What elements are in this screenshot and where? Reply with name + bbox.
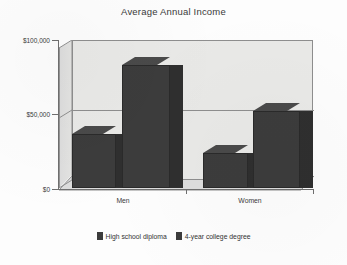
chart-figure: Average Annual Income $100,000 $50,000: [0, 0, 347, 265]
bar-side-face: [300, 111, 313, 188]
bar-women-4-year-college-degree: [253, 103, 300, 188]
x-tick-divider: [186, 189, 187, 194]
x-tick-end: [313, 189, 314, 194]
y-axis-label-100000: $100,000: [4, 37, 50, 44]
bar-front-face: [72, 134, 116, 188]
bar-top-face: [203, 145, 248, 153]
bar-side-face: [170, 65, 183, 188]
bar-women-high-school-diploma: [203, 145, 248, 188]
x-axis-label-women: Women: [215, 197, 285, 204]
bar-men-4-year-college-degree: [122, 57, 170, 188]
bar-front-face: [122, 65, 170, 188]
y-tick-50000: [52, 114, 59, 115]
bar-front-face: [203, 153, 248, 188]
legend-label-high-school-diploma: High school diploma: [106, 233, 167, 240]
plot-area: $100,000 $50,000 $0: [0, 0, 347, 265]
left-side-wall: [59, 40, 73, 188]
bar-front-face: [253, 111, 300, 188]
y-axis-label-50000: $50,000: [4, 111, 50, 118]
bar-top-face: [122, 57, 170, 65]
legend-swatch-college-icon: [176, 232, 182, 240]
y-axis-line: [58, 40, 59, 190]
x-axis-label-men: Men: [88, 197, 158, 204]
legend-label-4-year-college-degree: 4-year college degree: [185, 233, 251, 240]
legend-item-high-school-diploma: High school diploma: [97, 232, 167, 240]
bar-top-face: [253, 103, 300, 111]
y-tick-100000: [52, 40, 59, 41]
legend-swatch-high-school-icon: [97, 232, 103, 240]
chart-legend: High school diploma 4-year college degre…: [0, 232, 347, 240]
bar-top-face: [72, 126, 116, 134]
legend-item-4-year-college-degree: 4-year college degree: [176, 232, 251, 240]
y-axis-label-0: $0: [4, 186, 50, 193]
bar-men-high-school-diploma: [72, 126, 116, 188]
